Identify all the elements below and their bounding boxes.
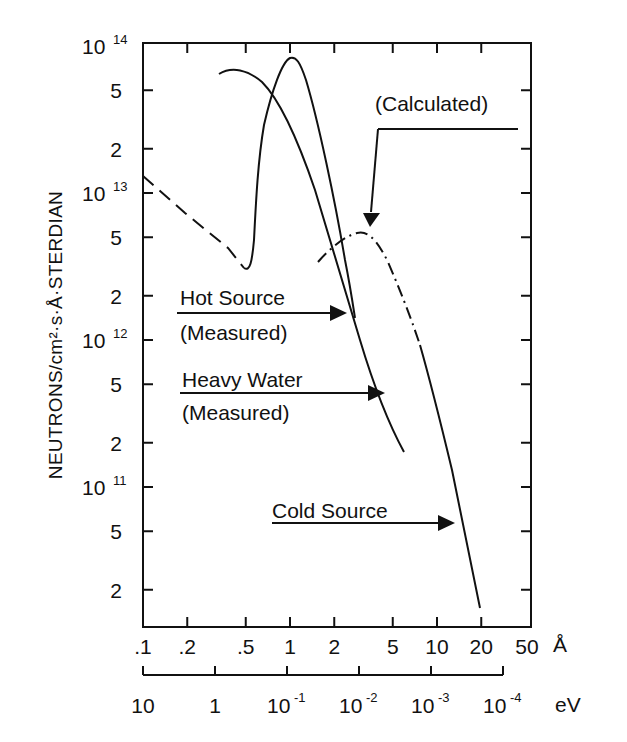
y-tick-label: 10 [82, 182, 105, 205]
ev-tick-label: 10 [131, 694, 154, 717]
hot-source-annotation: Hot Source (Measured) [177, 286, 347, 344]
y-tick-label: 5 [110, 226, 122, 249]
y-tick-label: 5 [110, 373, 122, 396]
neutron-spectrum-chart: NEUTRONS/cm²·s·Å·STERDIAN 10145210135210… [0, 0, 627, 742]
cold-source-curve [420, 345, 480, 608]
ev-tick-exponent: -3 [438, 690, 450, 705]
cold-source-annotation: Cold Source [272, 499, 455, 531]
x-tick-label: .5 [237, 635, 255, 658]
y-tick-label: 2 [110, 138, 122, 161]
hot-source-curve [244, 58, 355, 318]
y-tick-label: 10 [82, 476, 105, 499]
x-tick-label: 50 [515, 635, 538, 658]
svg-text:Cold Source: Cold Source [272, 499, 388, 522]
x-tick-label: .1 [134, 635, 152, 658]
arrow-head-icon [330, 305, 347, 321]
svg-text:(Calculated): (Calculated) [375, 92, 488, 115]
y-axis-label: NEUTRONS/cm²·s·Å·STERDIAN [45, 191, 66, 479]
x-tick-label: 20 [470, 635, 493, 658]
ev-tick-exponent: -2 [366, 690, 378, 705]
y-tick-label: 5 [110, 520, 122, 543]
ev-tick-label: 10 [339, 694, 362, 717]
y-tick-exponent: 11 [113, 473, 127, 488]
x2-unit-label: eV [555, 693, 581, 716]
y-tick-label: 2 [110, 432, 122, 455]
x-unit-label: Å [553, 633, 567, 656]
calculated-annotation: (Calculated) [363, 92, 518, 227]
ev-axis: 10110-110-210-310-4 [131, 666, 521, 717]
x-tick-label: 5 [387, 635, 399, 658]
ev-tick-exponent: -1 [294, 690, 306, 705]
x-tick-label: .2 [178, 635, 196, 658]
arrow-head-icon [363, 213, 380, 227]
hot-source-extrapolation-curve [143, 176, 244, 268]
ev-tick-label: 1 [209, 694, 221, 717]
arrow-head-icon [438, 515, 455, 531]
svg-text:Hot Source: Hot Source [180, 286, 285, 309]
y-tick-label: 2 [110, 285, 122, 308]
ev-tick-exponent: -4 [510, 690, 522, 705]
svg-text:(Measured): (Measured) [182, 401, 289, 424]
heavy-water-annotation: Heavy Water (Measured) [180, 368, 385, 424]
x-tick-label: 1 [284, 635, 296, 658]
svg-text:(Measured): (Measured) [180, 321, 287, 344]
y-tick-label: 2 [110, 579, 122, 602]
y-tick-label: 10 [82, 35, 105, 58]
y-tick-exponent: 13 [113, 179, 127, 194]
y-tick-exponent: 14 [113, 32, 127, 47]
x-tick-label: 2 [328, 635, 340, 658]
ev-tick-label: 10 [411, 694, 434, 717]
ev-tick-label: 10 [267, 694, 290, 717]
ev-tick-label: 10 [483, 694, 506, 717]
x-tick-label: 10 [425, 635, 448, 658]
x-axis-ticks: .1.2.5125102050 [134, 43, 538, 658]
y-tick-label: 10 [82, 329, 105, 352]
svg-text:Heavy Water: Heavy Water [182, 368, 303, 391]
y-tick-exponent: 12 [113, 326, 127, 341]
y-tick-label: 5 [110, 79, 122, 102]
